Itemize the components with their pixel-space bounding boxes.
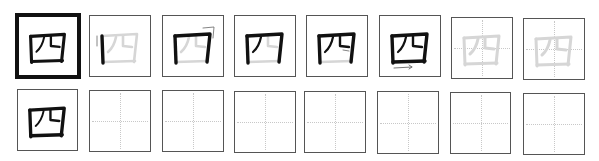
stroke-step-1-glyph (90, 16, 150, 76)
guide-line-vertical (335, 94, 336, 150)
stroke-step-2-glyph (163, 16, 223, 76)
character-si-glyph (19, 17, 77, 75)
practice-box-5[interactable]: practice (377, 91, 439, 154)
stroke-step-3-box: stroke 3 (234, 15, 296, 77)
stroke-step-5-glyph (380, 16, 440, 76)
guide-line-vertical (408, 94, 409, 151)
trace-box-2[interactable]: trace (523, 18, 585, 80)
practice-box-7[interactable]: practice (523, 93, 585, 155)
practice-box-2[interactable]: practice (162, 90, 224, 152)
character-si-glyph (18, 90, 77, 150)
practice-box-4[interactable]: practice (304, 91, 366, 153)
trace-glyph (452, 18, 512, 78)
model-character-box: 四 (15, 13, 81, 79)
practice-box-1[interactable]: practice (89, 90, 151, 152)
trace-box-1[interactable]: trace (451, 17, 513, 79)
guide-line-vertical (120, 93, 121, 149)
stroke-step-2-box: stroke 2 (162, 15, 224, 77)
stroke-step-1-box: stroke 1 (89, 15, 151, 77)
guide-line-vertical (265, 94, 266, 150)
guide-line-vertical (481, 95, 482, 151)
stroke-step-3-glyph (235, 16, 295, 76)
practice-box-3[interactable]: practice (234, 91, 296, 153)
trace-glyph (524, 19, 584, 79)
guide-line-vertical (193, 93, 194, 149)
model-character-box-row2: 四 (17, 89, 78, 151)
direction-arrow-icon (394, 65, 412, 69)
stroke-step-4-box: stroke 4 (306, 15, 368, 77)
direction-arrow-icon (343, 50, 349, 51)
guide-line-vertical (554, 96, 555, 152)
practice-box-6[interactable]: practice (450, 92, 511, 154)
stroke-step-4-glyph (307, 16, 367, 76)
stroke-step-5-box: stroke 5 (379, 15, 441, 77)
